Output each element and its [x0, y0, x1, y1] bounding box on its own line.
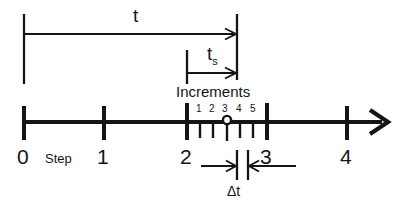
- increment-number-2: 2: [209, 104, 215, 114]
- dimension-arrow-ts: [187, 68, 236, 79]
- axis-tick-label-0: 0: [17, 146, 29, 167]
- axis-tick-label-1: 1: [97, 146, 109, 167]
- time-axis-line-group: [24, 110, 388, 134]
- measure-label-ts-subscript: s: [212, 55, 218, 67]
- current-increment-marker: [223, 116, 231, 124]
- increment-number-3: 3: [222, 104, 228, 114]
- increment-number-5: 5: [250, 104, 256, 114]
- diagram-canvas: t ts Increments 1 2 3 4 5 0 1 2 3 4 Step…: [0, 0, 399, 213]
- axis-tick-label-4: 4: [340, 146, 352, 167]
- measure-label-ts: ts: [207, 44, 218, 67]
- axis-tick-label-2: 2: [180, 146, 192, 167]
- dimension-arrow-t: [24, 29, 236, 40]
- measure-label-dt: Δt: [227, 184, 240, 198]
- measure-label-t: t: [133, 6, 138, 25]
- axis-tick-label-3: 3: [260, 146, 272, 167]
- increment-number-1: 1: [196, 104, 202, 114]
- increments-heading: Increments: [176, 84, 250, 99]
- step-label: Step: [45, 152, 72, 165]
- increment-number-4: 4: [236, 104, 242, 114]
